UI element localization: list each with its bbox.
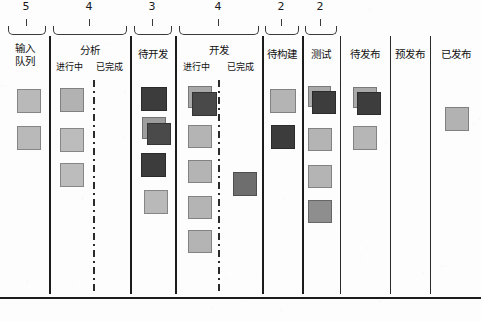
kanban-card[interactable] [188, 160, 212, 183]
kanban-card[interactable] [141, 153, 166, 177]
wip-limit-value: 4 [204, 1, 232, 13]
kanban-card[interactable] [271, 125, 295, 149]
kanban-card[interactable] [308, 165, 332, 188]
wip-limit-value: 4 [75, 1, 103, 13]
kanban-card[interactable] [192, 92, 217, 116]
column-title-line: 输入 [0, 42, 49, 55]
wip-limit-brace-stem [218, 19, 219, 26]
kanban-card[interactable] [141, 87, 167, 111]
kanban-card[interactable] [308, 200, 332, 223]
wip-limit-value: 5 [12, 1, 40, 13]
column-title-pre-release[interactable]: 预发布 [390, 48, 430, 60]
wip-limit-brace [53, 26, 127, 35]
wip-limit-brace [134, 26, 172, 35]
wip-limit-brace [8, 26, 46, 35]
wip-limit-value: 2 [267, 1, 295, 13]
kanban-card[interactable] [270, 89, 296, 113]
wip-limit-brace [179, 26, 259, 35]
column-title-ready-to-release[interactable]: 待发布 [340, 48, 390, 60]
column-divider [130, 36, 132, 294]
wip-limit-brace [265, 26, 299, 35]
subcolumn-title-development-doing[interactable]: 进行中 [175, 62, 219, 73]
column-title-line: 队列 [0, 55, 49, 68]
kanban-card[interactable] [60, 88, 84, 112]
wip-limit-brace-stem [152, 19, 153, 26]
kanban-card[interactable] [147, 123, 171, 145]
column-divider [430, 36, 431, 294]
kanban-board: 543422 输入队列分析进行中已完成待开发开发进行中已完成待构建测试待发布预发… [0, 0, 481, 321]
subcolumn-dash-dot-separator [218, 80, 220, 294]
column-divider [175, 36, 177, 294]
kanban-card[interactable] [353, 126, 377, 150]
column-title-analysis[interactable]: 分析 [49, 44, 130, 56]
kanban-card[interactable] [60, 128, 84, 152]
kanban-card[interactable] [308, 128, 332, 151]
subcolumn-title-analysis-doing[interactable]: 进行中 [49, 62, 90, 73]
wip-limit-brace-stem [89, 19, 90, 26]
column-title-development[interactable]: 开发 [175, 44, 262, 56]
column-divider [340, 36, 341, 294]
wip-limit-brace-stem [281, 19, 282, 26]
subcolumn-title-development-done[interactable]: 已完成 [219, 62, 263, 73]
kanban-card[interactable] [17, 89, 41, 113]
kanban-card[interactable] [312, 91, 336, 114]
subcolumn-title-analysis-done[interactable]: 已完成 [90, 62, 131, 73]
column-divider [49, 36, 51, 294]
subcolumn-dash-dot-separator [93, 80, 95, 294]
column-divider [262, 36, 264, 294]
kanban-card[interactable] [445, 107, 469, 131]
kanban-card[interactable] [188, 230, 212, 253]
wip-limit-value: 2 [306, 1, 334, 13]
wip-limit-brace [305, 26, 337, 35]
column-title-input-queue[interactable]: 输入队列 [0, 42, 49, 67]
wip-limit-brace-stem [320, 19, 321, 26]
column-title-ready-for-build[interactable]: 待构建 [262, 48, 302, 60]
kanban-card[interactable] [188, 196, 212, 219]
board-bottom-rule [0, 297, 481, 299]
kanban-card[interactable] [188, 125, 212, 148]
column-title-test[interactable]: 测试 [302, 48, 340, 60]
wip-limit-brace-stem [26, 19, 27, 26]
kanban-card[interactable] [60, 163, 84, 187]
kanban-card[interactable] [17, 126, 41, 150]
column-title-released[interactable]: 已发布 [430, 48, 481, 60]
kanban-card[interactable] [144, 190, 168, 214]
wip-limit-value: 3 [138, 1, 166, 13]
column-divider [302, 36, 304, 294]
column-divider [390, 36, 391, 294]
column-title-ready-for-dev[interactable]: 待开发 [130, 48, 175, 60]
kanban-card[interactable] [233, 172, 257, 196]
kanban-card[interactable] [357, 92, 381, 115]
